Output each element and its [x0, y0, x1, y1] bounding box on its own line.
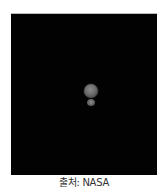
image-caption: 출처: NASA — [0, 175, 168, 190]
charon-moon — [87, 99, 95, 106]
pluto-planet — [84, 84, 98, 98]
space-photo — [11, 13, 157, 175]
